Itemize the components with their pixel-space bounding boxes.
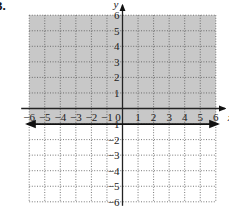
y-tick-label: −3 (108, 149, 120, 161)
x-tick-label: −2 (86, 111, 98, 123)
y-tick-label: −6 (108, 196, 120, 208)
x-tick-label: 2 (151, 111, 157, 123)
y-tick-label: −4 (108, 165, 120, 177)
x-tick-label: −3 (70, 111, 82, 123)
y-tick-label: −2 (108, 134, 120, 146)
x-tick-label: −4 (54, 111, 66, 123)
x-tick-label: −5 (39, 111, 51, 123)
y-tick-label: −5 (108, 180, 120, 192)
y-tick-label: 6 (114, 9, 120, 21)
x-tick-label: 3 (166, 111, 172, 123)
y-tick-label: −1 (108, 118, 120, 130)
x-tick-label: −6 (23, 111, 35, 123)
x-tick-label: 5 (198, 111, 204, 123)
x-tick-label: 6 (213, 111, 219, 123)
y-tick-label: 1 (114, 87, 120, 99)
y-tick-label: 3 (114, 56, 120, 68)
y-tick-label: 4 (114, 40, 120, 52)
y-tick-label: 2 (114, 71, 120, 83)
x-tick-label: 1 (135, 111, 141, 123)
y-tick-label: 5 (114, 25, 120, 37)
x-axis-label: x (227, 111, 229, 123)
y-axis-label: y (113, 0, 119, 10)
x-tick-label: 4 (182, 111, 188, 123)
inequality-graph: −6−5−4−3−2−10123456654321−1−2−3−4−5−6xy (0, 0, 229, 211)
